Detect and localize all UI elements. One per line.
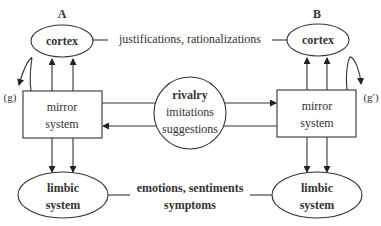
loop-g-label: (g)	[4, 91, 17, 104]
mirror-b-line1: mirror	[302, 99, 333, 113]
mirror-b-line2: system	[300, 116, 334, 130]
cortex-link-label: justifications, rationalizations	[118, 32, 261, 46]
cortex-a-node: cortex	[31, 25, 93, 57]
limbic-system-a-node: limbic system	[18, 172, 108, 218]
limbic-a-line1: limbic	[47, 181, 80, 195]
rivalry-line3: suggestions	[162, 122, 218, 136]
loop-g-arrow	[19, 58, 32, 91]
limbic-b-line2: system	[300, 198, 335, 212]
limbic-b-line1: limbic	[301, 181, 334, 195]
side-b-label: B	[313, 7, 321, 21]
limbic-system-b-node: limbic system	[272, 172, 362, 218]
limbic-link-line2: symptoms	[164, 198, 216, 212]
cortex-a-label: cortex	[46, 34, 78, 48]
rivalry-node: rivalry imitations suggestions	[154, 77, 226, 149]
loop-g-prime-label: (g′)	[363, 91, 379, 104]
side-a-label: A	[58, 7, 67, 21]
mimetic-rivalry-diagram: A cortex (g) mirror system limbic system…	[0, 0, 381, 226]
cortex-b-node: cortex	[287, 24, 349, 56]
mirror-system-a-node: mirror system	[23, 91, 102, 138]
mirror-a-line2: system	[45, 117, 79, 131]
mirror-a-line1: mirror	[47, 100, 78, 114]
rivalry-line2: imitations	[166, 105, 214, 119]
mirror-system-b-node: mirror system	[277, 90, 356, 137]
loop-g-prime-arrow	[346, 57, 361, 90]
limbic-a-line2: system	[46, 198, 81, 212]
rivalry-title: rivalry	[172, 88, 207, 102]
cortex-b-label: cortex	[302, 33, 334, 47]
limbic-link-line1: emotions, sentiments	[137, 181, 244, 195]
